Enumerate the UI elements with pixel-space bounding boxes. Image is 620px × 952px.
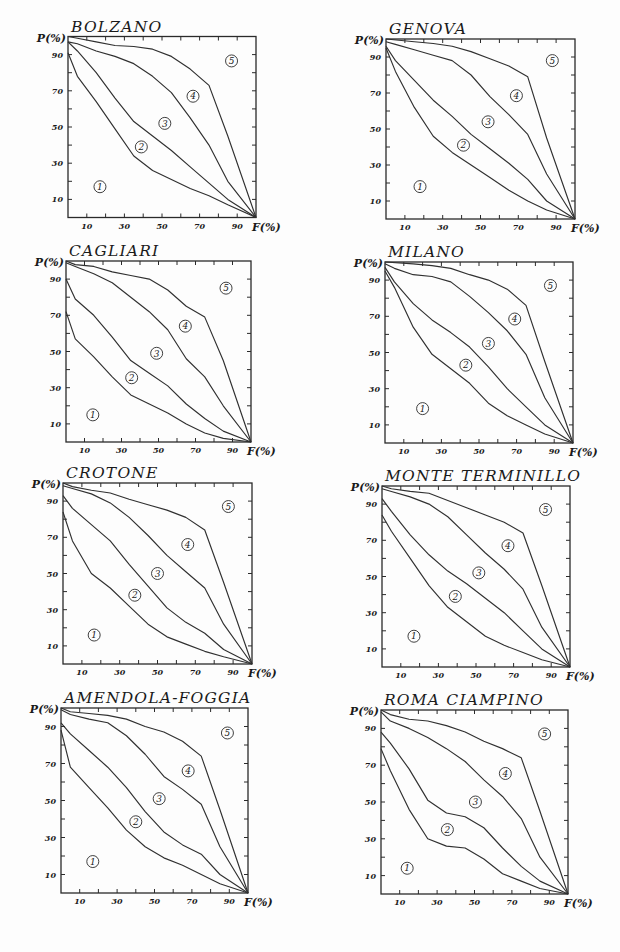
y-tick-label: 30 (365, 834, 377, 844)
zone-label-number: 4 (184, 766, 191, 776)
y-tick-label: 10 (370, 196, 382, 206)
x-axis-label: F(%) (570, 222, 600, 235)
zone-label-number: 4 (181, 321, 188, 331)
zone-label: 1 (408, 630, 420, 642)
zone-label-number: 5 (229, 56, 235, 66)
zone-label-number: 4 (511, 314, 518, 324)
boundary-curve-1-2 (386, 48, 575, 219)
chart-title: AMENDOLA-FOGGIA (62, 689, 251, 707)
zone-label-number: 4 (504, 541, 511, 551)
y-tick-label: 10 (47, 641, 59, 651)
x-tick-label: 90 (228, 667, 240, 677)
x-tick-label: 50 (156, 221, 168, 231)
x-tick-label: 50 (469, 897, 481, 907)
zone-label-number: 2 (444, 825, 451, 835)
x-tick-label: 70 (194, 221, 206, 231)
x-tick-label: 30 (119, 221, 131, 231)
zone-label-number: 1 (411, 631, 417, 641)
y-axis-label: P(%) (29, 703, 59, 716)
zone-label: 4 (182, 765, 194, 777)
x-tick-label: 10 (79, 445, 91, 455)
boundary-curve-2-3 (382, 499, 570, 667)
x-tick-label: 50 (149, 896, 161, 906)
zone-label: 4 (509, 313, 521, 325)
chart-title: CAGLIARI (69, 242, 159, 260)
y-tick-label: 30 (50, 383, 62, 393)
figure-page: BOLZANO10305070901030507090P(%)F(%)12345… (0, 0, 620, 952)
x-axis-label: F(%) (565, 670, 595, 683)
y-tick-label: 10 (45, 870, 57, 880)
x-tick-label: 30 (116, 445, 128, 455)
y-tick-label: 50 (45, 796, 57, 806)
y-tick-label: 90 (52, 50, 64, 60)
x-axis-label: F(%) (247, 667, 277, 680)
plot-frame (386, 39, 575, 219)
chart-panel: AMENDOLA-FOGGIA10305070901030507090P(%)F… (29, 689, 273, 909)
x-tick-label: 70 (508, 670, 520, 680)
chart-panel: ROMA CIAMPINO10305070901030507090P(%)F(%… (349, 691, 593, 910)
zone-label-number: 1 (404, 863, 410, 873)
zone-label-number: 1 (420, 404, 426, 414)
y-tick-label: 70 (45, 759, 57, 769)
x-axis-label: F(%) (251, 221, 281, 234)
zone-label: 1 (88, 629, 100, 641)
zone-label: 5 (221, 727, 233, 739)
y-tick-label: 30 (366, 608, 378, 618)
y-tick-label: 70 (370, 88, 382, 98)
x-tick-label: 30 (437, 222, 449, 232)
x-tick-label: 30 (114, 667, 126, 677)
y-tick-label: 90 (369, 275, 381, 285)
boundary-curve-2-3 (386, 46, 575, 219)
zone-label: 3 (151, 347, 163, 359)
zone-label-number: 3 (162, 119, 168, 129)
chart-panel: GENOVA10305070901030507090P(%)F(%)12345 (354, 20, 600, 235)
zone-label: 4 (187, 90, 199, 102)
zone-label-number: 1 (91, 630, 97, 640)
zone-label-number: 3 (156, 794, 162, 804)
y-tick-label: 50 (366, 572, 378, 582)
zone-label: 1 (87, 856, 99, 868)
zone-label: 1 (87, 409, 99, 421)
zone-label-number: 4 (513, 91, 520, 101)
x-tick-label: 30 (112, 896, 124, 906)
zone-label-number: 1 (90, 410, 96, 420)
y-tick-label: 70 (47, 532, 59, 542)
zone-label-number: 5 (548, 281, 554, 291)
zone-label-number: 5 (226, 502, 232, 512)
zone-label-number: 2 (132, 817, 139, 827)
zone-label-number: 3 (485, 117, 491, 127)
y-tick-label: 70 (50, 310, 62, 320)
zone-label: 5 (540, 504, 552, 516)
y-tick-label: 70 (52, 86, 64, 96)
y-axis-label: P(%) (353, 257, 383, 270)
x-tick-label: 50 (152, 667, 164, 677)
y-tick-label: 10 (52, 194, 64, 204)
y-tick-label: 70 (369, 311, 381, 321)
x-tick-label: 90 (544, 897, 556, 907)
zone-label-number: 5 (225, 728, 231, 738)
boundary-curve-1-2 (63, 512, 252, 664)
y-axis-label: P(%) (36, 32, 66, 45)
zone-label: 5 (222, 501, 234, 513)
x-axis-label: F(%) (243, 896, 273, 909)
zone-label: 3 (482, 337, 494, 349)
zone-label: 2 (130, 816, 142, 828)
y-tick-label: 90 (50, 274, 62, 284)
y-tick-label: 50 (52, 122, 64, 132)
zone-label-number: 4 (184, 540, 191, 550)
y-tick-label: 70 (366, 535, 378, 545)
x-tick-label: 90 (551, 222, 563, 232)
zone-label: 2 (449, 590, 461, 602)
x-tick-label: 10 (74, 896, 86, 906)
x-tick-label: 90 (546, 670, 558, 680)
x-tick-label: 90 (232, 221, 244, 231)
zone-label-number: 1 (97, 182, 103, 192)
x-tick-label: 70 (506, 897, 518, 907)
zone-label: 1 (414, 181, 426, 193)
zone-label: 3 (469, 796, 481, 808)
x-tick-label: 50 (470, 670, 482, 680)
zone-label-number: 5 (223, 283, 229, 293)
y-tick-label: 10 (50, 419, 62, 429)
boundary-curve-4-5 (385, 262, 573, 443)
zone-label: 5 (220, 282, 232, 294)
